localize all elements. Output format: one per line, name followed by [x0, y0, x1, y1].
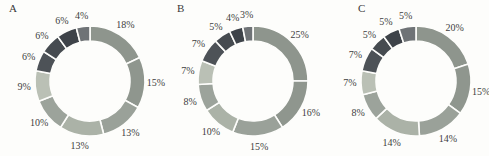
segment-value-label: 7% [343, 77, 356, 88]
segment-value-label: 10% [30, 117, 48, 128]
segment-value-label: 13% [121, 127, 139, 138]
donut-segment [35, 71, 53, 102]
chart-letter-a: A [9, 2, 17, 14]
segment-value-label: 5% [379, 16, 392, 27]
donut-segment [243, 26, 253, 42]
segment-value-label: 6% [22, 51, 35, 62]
segment-value-label: 6% [55, 15, 68, 26]
donut-segment [90, 26, 140, 64]
segment-value-label: 4% [75, 10, 88, 21]
segment-value-label: 7% [349, 49, 362, 60]
donut-segment [274, 81, 308, 127]
chart-panel-b: B 25%16%15%10%8%7%7%5%4%3% [163, 0, 326, 156]
donut-segment [125, 58, 145, 108]
segment-value-label: 16% [302, 107, 320, 118]
segment-value-label: 7% [192, 38, 205, 49]
segment-value-label: 3% [240, 9, 253, 20]
chart-letter-c: C [358, 2, 365, 14]
segment-value-label: 9% [18, 81, 31, 92]
segment-value-label: 8% [184, 96, 197, 107]
segment-value-label: 18% [116, 19, 134, 30]
chart-panel-a: A 18%15%13%13%10%9%6%6%6%4% [0, 0, 163, 156]
segment-value-label: 15% [250, 141, 268, 152]
segment-value-label: 14% [439, 133, 457, 144]
segment-value-label: 4% [226, 12, 239, 23]
segment-value-label: 25% [290, 29, 308, 40]
donut-chart-c: 20%15%14%14%8%7%7%5%5%5% [326, 0, 489, 156]
donut-chart-a: 18%15%13%13%10%9%6%6%6%4% [0, 0, 163, 156]
segment-value-label: 7% [181, 65, 194, 76]
segment-value-label: 13% [71, 140, 89, 151]
chart-letter-b: B [177, 2, 184, 14]
segment-value-label: 6% [35, 30, 48, 41]
donut-segment [448, 64, 471, 113]
segment-value-label: 15% [472, 86, 489, 97]
donut-segment [419, 105, 461, 136]
segment-value-label: 5% [399, 10, 412, 21]
segment-value-label: 14% [383, 137, 401, 148]
segment-value-label: 10% [202, 126, 220, 137]
three-donut-charts: A 18%15%13%13%10%9%6%6%6%4% B 25%16%15%1… [0, 0, 489, 156]
donut-segment [233, 115, 283, 136]
segment-value-label: 5% [209, 21, 222, 32]
chart-panel-c: C 20%15%14%14%8%7%7%5%5%5% [326, 0, 489, 156]
segment-value-label: 8% [351, 107, 364, 118]
donut-segment [361, 71, 377, 95]
donut-chart-b: 25%16%15%10%8%7%7%5%4%3% [163, 0, 326, 156]
segment-value-label: 20% [446, 22, 464, 33]
segment-value-label: 5% [363, 29, 376, 40]
